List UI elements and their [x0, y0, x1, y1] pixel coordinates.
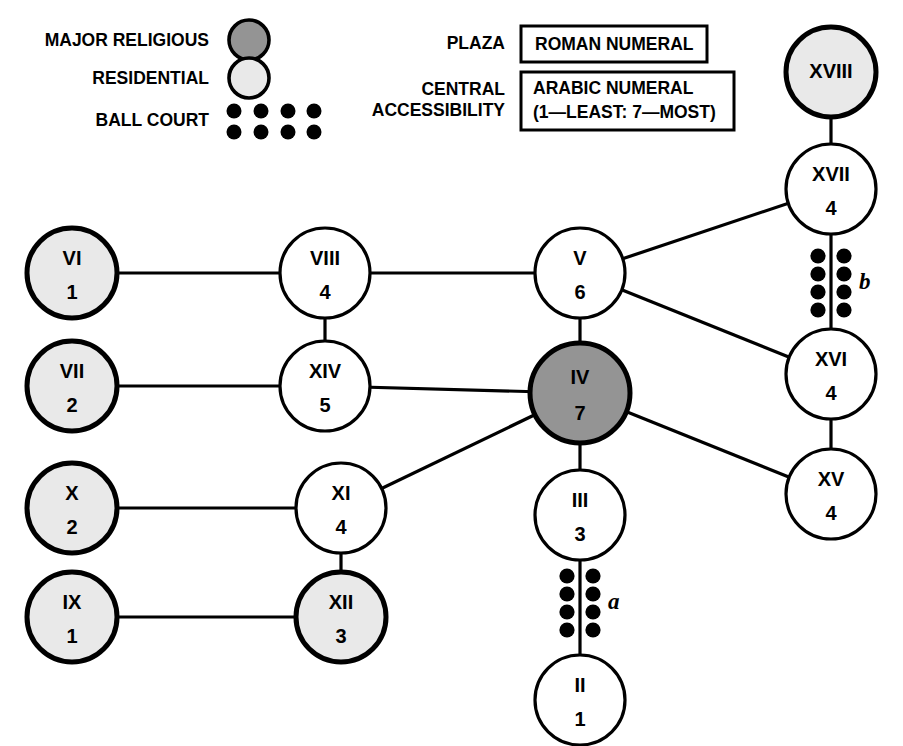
node-roman-XI: XI: [332, 482, 351, 504]
node-XV[interactable]: XV 4: [786, 449, 876, 539]
node-shape-II[interactable]: [535, 655, 625, 745]
plaza-network-diagram: MAJOR RELIGIOUS RESIDENTIAL BALL COURT: [0, 0, 903, 746]
node-arabic-III: 3: [574, 523, 585, 545]
node-shape-X[interactable]: [27, 463, 117, 553]
node-arabic-VI: 1: [66, 281, 77, 303]
node-XI[interactable]: XI 4: [296, 463, 386, 553]
node-shape-VII[interactable]: [27, 341, 117, 431]
node-shape-III[interactable]: [535, 470, 625, 560]
node-arabic-IV: 7: [574, 402, 585, 424]
node-roman-XVII: XVII: [812, 163, 850, 185]
node-IX[interactable]: IX 1: [27, 572, 117, 662]
node-roman-XVIII: XVIII: [809, 60, 852, 82]
legend-label-residential: RESIDENTIAL: [92, 68, 209, 88]
node-roman-II: II: [574, 674, 585, 696]
node-roman-XVI: XVI: [815, 348, 847, 370]
node-shape-XII[interactable]: [296, 572, 386, 662]
node-XVIII[interactable]: XVIII: [786, 27, 876, 117]
legend-item-major-religious: MAJOR RELIGIOUS: [45, 20, 269, 60]
node-roman-XV: XV: [818, 468, 845, 490]
node-arabic-XIV: 5: [319, 394, 330, 416]
node-roman-X: X: [65, 482, 79, 504]
legend-key-box-text-plaza: ROMAN NUMERAL: [535, 34, 694, 54]
node-III[interactable]: III 3: [535, 470, 625, 560]
legend-item-ball-court: BALL COURT: [96, 104, 322, 140]
node-roman-III: III: [572, 489, 589, 511]
node-shape-VI[interactable]: [27, 228, 117, 318]
legend-label-ball-court: BALL COURT: [96, 110, 210, 130]
node-arabic-VIII: 4: [319, 281, 331, 303]
diagram-canvas: MAJOR RELIGIOUS RESIDENTIAL BALL COURT: [0, 0, 903, 746]
node-roman-VIII: VIII: [310, 247, 340, 269]
node-arabic-XVI: 4: [825, 382, 837, 404]
node-arabic-XVII: 4: [825, 197, 837, 219]
node-arabic-V: 6: [574, 281, 585, 303]
legend-key-central-accessibility: CENTRAL ACCESSIBILITY ARABIC NUMERAL (1—…: [372, 72, 734, 130]
node-VIII[interactable]: VIII 4: [280, 228, 370, 318]
node-IV[interactable]: IV 7: [530, 343, 630, 443]
node-XIV[interactable]: XIV 5: [280, 341, 370, 431]
node-arabic-X: 2: [66, 516, 77, 538]
node-arabic-VII: 2: [66, 394, 77, 416]
node-arabic-XV: 4: [825, 502, 837, 524]
legend-key-box-text-arabic-numeral: ARABIC NUMERAL: [533, 78, 694, 98]
node-XVII[interactable]: XVII 4: [786, 144, 876, 234]
node-shape-IX[interactable]: [27, 572, 117, 662]
node-V[interactable]: V 6: [535, 228, 625, 318]
edge-layer: [72, 72, 831, 700]
node-XVI[interactable]: XVI 4: [786, 329, 876, 419]
legend-item-residential: RESIDENTIAL: [92, 58, 269, 98]
node-roman-IV: IV: [571, 366, 591, 388]
node-arabic-II: 1: [574, 708, 585, 730]
node-VI[interactable]: VI 1: [27, 228, 117, 318]
node-VII[interactable]: VII 2: [27, 341, 117, 431]
legend-swatch-major-religious-circle-icon: [229, 20, 269, 60]
node-X[interactable]: X 2: [27, 463, 117, 553]
legend-key-label-central-accessibility-line1: CENTRAL: [421, 79, 505, 99]
node-XII[interactable]: XII 3: [296, 572, 386, 662]
ball-court-a: a: [559, 568, 619, 637]
node-shape-IV[interactable]: [530, 343, 630, 443]
legend-key-label-plaza: PLAZA: [447, 33, 506, 53]
ball-court-a-label: a: [608, 589, 620, 614]
node-arabic-XI: 4: [335, 516, 347, 538]
node-shape-XIV[interactable]: [280, 341, 370, 431]
ball-court-b: b: [810, 248, 870, 317]
node-shape-XVI[interactable]: [786, 329, 876, 419]
node-shape-V[interactable]: [535, 228, 625, 318]
node-II[interactable]: II 1: [535, 655, 625, 745]
node-arabic-XII: 3: [335, 625, 346, 647]
node-arabic-IX: 1: [66, 625, 77, 647]
node-roman-VI: VI: [63, 247, 82, 269]
ball-court-b-label: b: [859, 269, 871, 294]
node-shape-VIII[interactable]: [280, 228, 370, 318]
node-shape-XVII[interactable]: [786, 144, 876, 234]
legend-key-box-text-scale: (1—LEAST: 7—MOST): [533, 102, 716, 122]
node-roman-VII: VII: [60, 360, 84, 382]
legend-swatch-residential-circle-icon: [229, 58, 269, 98]
node-shape-XI[interactable]: [296, 463, 386, 553]
node-roman-IX: IX: [63, 591, 83, 613]
node-roman-V: V: [573, 247, 587, 269]
node-roman-XII: XII: [329, 591, 353, 613]
legend-key-plaza: PLAZA ROMAN NUMERAL: [447, 26, 707, 62]
legend: MAJOR RELIGIOUS RESIDENTIAL BALL COURT: [45, 20, 734, 140]
legend-swatch-ball-court-dot-grid-icon: [227, 104, 322, 140]
node-roman-XIV: XIV: [309, 360, 342, 382]
legend-label-major-religious: MAJOR RELIGIOUS: [45, 30, 209, 50]
legend-key-label-central-accessibility-line2: ACCESSIBILITY: [372, 100, 506, 120]
node-shape-XV[interactable]: [786, 449, 876, 539]
